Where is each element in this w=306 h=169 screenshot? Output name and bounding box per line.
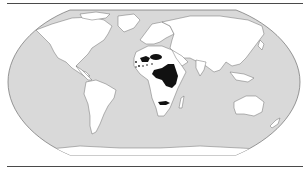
world-map — [0, 0, 306, 169]
highlight-sahel-blob — [150, 54, 162, 60]
bottom-rule — [7, 166, 303, 167]
